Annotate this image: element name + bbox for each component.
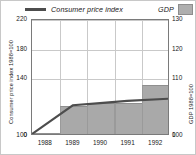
y-tick-right-100: 100 xyxy=(172,131,196,138)
bar-gdp-1988 xyxy=(32,133,60,134)
bar-gdp-1990 xyxy=(87,103,115,134)
x-tick-1991: 1991 xyxy=(114,139,142,146)
y-tick-left-100: 100 xyxy=(1,131,27,138)
x-tick-1989: 1989 xyxy=(59,139,87,146)
x-tick-1988: 1988 xyxy=(31,139,59,146)
y-tick-left-220: 220 xyxy=(1,15,27,22)
x-tick-1992: 1992 xyxy=(141,139,169,146)
legend-item-gdp[interactable]: GDP xyxy=(158,3,193,15)
legend-label-gdp: GDP xyxy=(158,5,174,14)
y-tick-right-130: 130 xyxy=(172,15,196,22)
legend-item-cpi[interactable]: Consumer price index xyxy=(25,3,123,15)
y-tick-left-140: 140 xyxy=(1,74,27,81)
plot-area xyxy=(31,19,169,135)
legend-line-icon xyxy=(25,8,46,11)
bar-gdp-1991 xyxy=(115,103,143,134)
gridline-horizontal xyxy=(32,20,168,21)
chart-legend: Consumer price index GDP xyxy=(1,3,196,15)
gridline-horizontal xyxy=(32,79,168,80)
y-tick-right-110: 110 xyxy=(172,74,196,81)
chart-figure: Consumer price index GDP Consumer price … xyxy=(0,0,196,155)
x-tick-1990: 1990 xyxy=(86,139,114,146)
legend-swatch-icon xyxy=(178,4,193,15)
legend-label-cpi: Consumer price index xyxy=(51,5,123,14)
gridline-horizontal xyxy=(32,50,168,51)
bar-gdp-1989 xyxy=(60,106,88,134)
y-tick-right-120: 120 xyxy=(172,45,196,52)
bar-gdp-1992 xyxy=(142,85,169,134)
y-tick-left-180: 180 xyxy=(1,45,27,52)
